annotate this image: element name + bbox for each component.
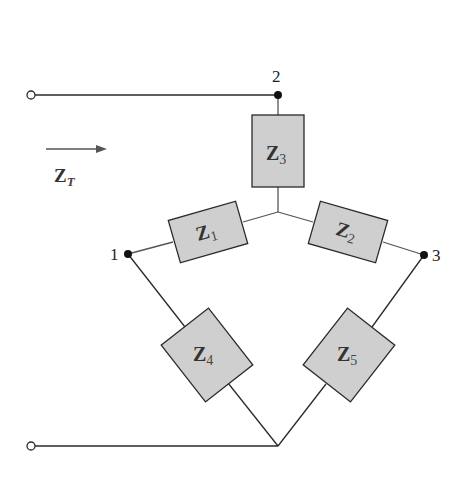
impedance-z4: Z4: [161, 308, 253, 402]
zt-arrow-icon: [46, 145, 107, 153]
circuit-diagram: ZT Z3 Z1 Z2 Z4 Z5 2 1 3: [0, 0, 468, 485]
node-3-label: 3: [432, 246, 441, 265]
node-2-dot: [274, 91, 282, 99]
node-1-label: 1: [110, 245, 119, 264]
wire-z4-bottom: [228, 383, 278, 446]
impedance-z2: Z2: [308, 201, 387, 263]
wire-center-z1: [243, 212, 278, 222]
wire-3-z5: [372, 255, 424, 327]
wire-1-z4: [128, 254, 185, 327]
wire-z2-3: [383, 242, 424, 255]
wire-z1-1: [128, 242, 173, 254]
wire-z5-bottom: [278, 384, 326, 446]
node-1-dot: [124, 250, 132, 258]
top-terminal: [27, 91, 35, 99]
impedance-z3: Z3: [252, 115, 304, 187]
node-2-label: 2: [272, 67, 281, 86]
node-3-dot: [420, 251, 428, 259]
impedance-z5: Z5: [303, 308, 395, 402]
bottom-terminal: [27, 442, 35, 450]
zt-label: ZT: [54, 165, 76, 189]
impedance-z1: Z1: [168, 201, 247, 263]
wire-center-z2: [278, 212, 313, 222]
